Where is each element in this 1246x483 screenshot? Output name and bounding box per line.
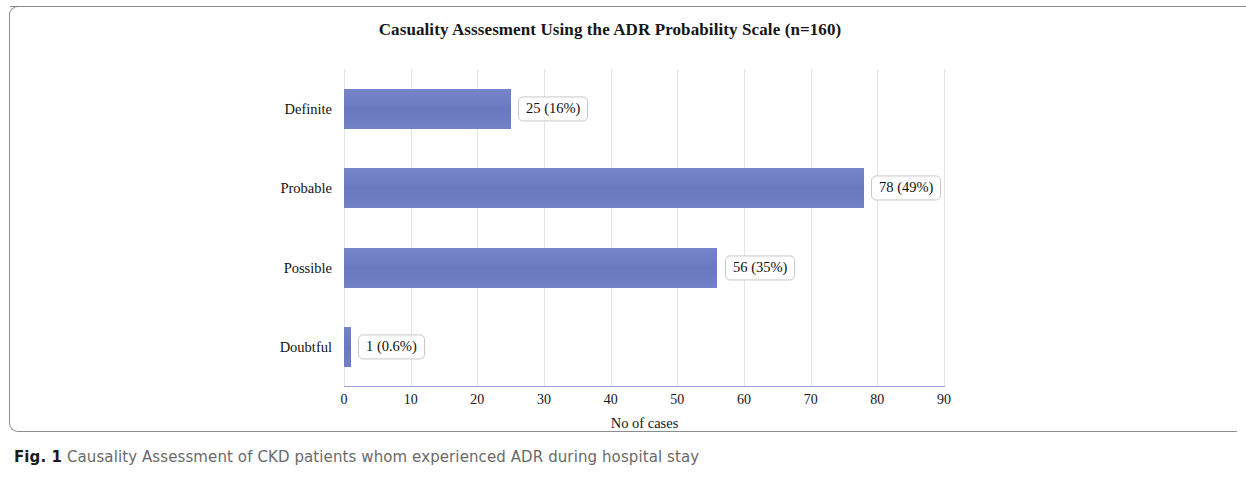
bar-row-probable: Probable 78 (49%) [344, 149, 944, 229]
xtick-20: 20 [470, 392, 484, 408]
xtick-10: 10 [404, 392, 418, 408]
bar-probable[interactable] [344, 168, 864, 208]
bar-doubtful[interactable] [344, 327, 351, 367]
xtick-60: 60 [737, 392, 751, 408]
x-axis-tick-labels: 0 10 20 30 40 50 60 70 80 90 [344, 392, 945, 414]
xtick-90: 90 [937, 392, 951, 408]
bar-row-definite: Definite 25 (16%) [344, 69, 944, 149]
xtick-40: 40 [604, 392, 618, 408]
figure-caption: Fig. 1 Causality Assessment of CKD patie… [14, 448, 1214, 466]
chart-title: Casuality Asssesment Using the ADR Proba… [10, 20, 1210, 40]
value-label-possible: 56 (35%) [725, 255, 795, 280]
bar-row-possible: Possible 56 (35%) [344, 228, 944, 308]
xtick-70: 70 [804, 392, 818, 408]
value-label-definite: 25 (16%) [518, 96, 588, 121]
bar-chart: Casuality Asssesment Using the ADR Proba… [10, 7, 1239, 437]
category-label-possible: Possible [284, 259, 332, 276]
figure-caption-text: Causality Assessment of CKD patients who… [67, 448, 699, 466]
xtick-30: 30 [537, 392, 551, 408]
xtick-80: 80 [870, 392, 884, 408]
x-axis-line [344, 386, 945, 387]
bar-possible[interactable] [344, 248, 717, 288]
figure-frame: Casuality Asssesment Using the ADR Proba… [9, 6, 1237, 432]
value-label-probable: 78 (49%) [871, 176, 941, 201]
figure-caption-label: Fig. 1 [14, 448, 62, 466]
gridline-90 [944, 69, 945, 387]
xtick-50: 50 [670, 392, 684, 408]
category-label-doubtful: Doubtful [280, 339, 332, 356]
value-label-doubtful: 1 (0.6%) [358, 335, 425, 360]
category-label-probable: Probable [280, 180, 332, 197]
x-axis-title: No of cases [344, 415, 945, 432]
category-label-definite: Definite [284, 100, 332, 117]
plot-area: Definite 25 (16%) Probable 78 (49%) Poss… [344, 69, 944, 387]
xtick-0: 0 [341, 392, 348, 408]
bar-row-doubtful: Doubtful 1 (0.6%) [344, 308, 944, 388]
bar-definite[interactable] [344, 89, 511, 129]
